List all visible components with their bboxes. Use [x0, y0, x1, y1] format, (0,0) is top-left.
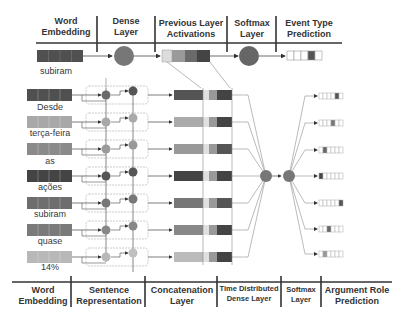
event-type-prediction-vector: [287, 51, 322, 60]
time-distributed-dense-node: [260, 170, 272, 182]
event-word-embedding: [37, 50, 83, 62]
top-header-rules: [36, 16, 342, 52]
argument-role-predictions: [319, 93, 343, 257]
sentence-embeddings: [27, 89, 72, 263]
architecture-diagram: [0, 0, 406, 323]
previous-activations-vector: [162, 50, 210, 62]
softmax-node-top: [239, 46, 259, 66]
dense-node: [114, 46, 134, 66]
bottom-header-rules: [12, 276, 392, 307]
